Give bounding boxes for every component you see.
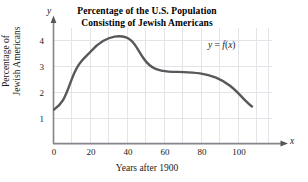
vertical-gridlines	[72, 28, 269, 144]
x-tick-label-20: 20	[81, 147, 101, 157]
x-tick-label-0: 0	[44, 147, 64, 157]
horizontal-gridlines	[54, 41, 272, 119]
y-axis-title-line-2: Jewish Americans	[12, 9, 23, 113]
x-tick-label-80: 80	[192, 147, 212, 157]
y-axis-variable-label: y	[47, 6, 51, 16]
x-tick-label-100: 100	[229, 147, 249, 157]
y-axis-title-line-1: Percentage of	[1, 9, 12, 113]
x-tick-label-60: 60	[155, 147, 175, 157]
chart-figure: Percentage of the U.S. Population Consis…	[0, 0, 308, 182]
x-axis-variable-label: x	[290, 136, 294, 146]
y-tick-label-3: 3	[30, 62, 44, 72]
y-axis-title: Percentage of Jewish Americans	[1, 9, 27, 113]
annotation-close-paren: )	[232, 40, 235, 50]
x-axis	[53, 141, 288, 147]
curve-function-annotation: y = f(x)	[208, 40, 236, 50]
y-tick-label-2: 2	[30, 88, 44, 98]
x-axis-title: Years after 1900	[52, 163, 242, 173]
x-tick-label-40: 40	[118, 147, 138, 157]
y-tick-label-4: 4	[30, 36, 44, 46]
y-tick-label-1: 1	[30, 114, 44, 124]
y-axis	[51, 16, 57, 145]
